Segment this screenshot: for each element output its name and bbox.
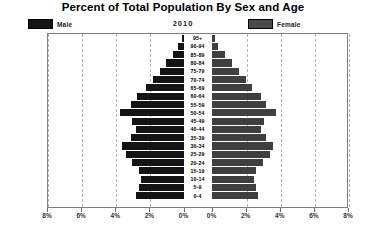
female-bar-cell bbox=[212, 134, 348, 142]
plot-area: 95+90-9485-8980-8475-7970-7465-6960-6455… bbox=[47, 33, 348, 208]
female-bar-cell bbox=[212, 125, 348, 133]
male-bar-cell bbox=[48, 34, 184, 42]
female-bar-cell bbox=[212, 92, 348, 100]
female-bar-cell bbox=[212, 183, 348, 191]
male-bar bbox=[122, 142, 183, 149]
male-bar bbox=[146, 84, 184, 91]
male-bar-cell bbox=[48, 100, 184, 108]
pyramid-row: 5-9 bbox=[48, 183, 347, 191]
female-bar-cell bbox=[212, 100, 348, 108]
axis-tick-label: 6% bbox=[309, 212, 318, 219]
pyramid-row: 60-64 bbox=[48, 92, 347, 100]
age-group-label: 30-34 bbox=[184, 142, 212, 150]
female-bar-cell bbox=[212, 167, 348, 175]
female-bar bbox=[212, 176, 255, 183]
pyramid-rows: 95+90-9485-8980-8475-7970-7465-6960-6455… bbox=[48, 34, 347, 207]
female-bar bbox=[212, 192, 258, 199]
chart-title: Percent of Total Population By Sex and A… bbox=[0, 1, 366, 13]
male-bar-cell bbox=[48, 75, 184, 83]
male-bar-cell bbox=[48, 175, 184, 183]
male-bar bbox=[131, 134, 184, 141]
age-group-label: 75-79 bbox=[184, 67, 212, 75]
age-group-label: 45-49 bbox=[184, 117, 212, 125]
female-bar-cell bbox=[212, 75, 348, 83]
female-bar bbox=[212, 118, 265, 125]
pyramid-row: 30-34 bbox=[48, 142, 347, 150]
age-group-label: 10-14 bbox=[184, 175, 212, 183]
pyramid-row: 40-44 bbox=[48, 125, 347, 133]
male-bar-cell bbox=[48, 150, 184, 158]
age-group-label: 90-94 bbox=[184, 42, 212, 50]
x-axis-labels: 8%6%4%2%0%0%2%4%6%8% bbox=[0, 212, 366, 226]
female-bar bbox=[212, 109, 277, 116]
male-bar bbox=[136, 126, 184, 133]
age-group-label: 25-29 bbox=[184, 150, 212, 158]
female-bar bbox=[212, 134, 267, 141]
female-bar-cell bbox=[212, 158, 348, 166]
axis-tick-label: 8% bbox=[343, 212, 352, 219]
male-bar-cell bbox=[48, 92, 184, 100]
axis-tick-label: 8% bbox=[42, 212, 51, 219]
female-bar-cell bbox=[212, 42, 348, 50]
age-group-label: 50-54 bbox=[184, 109, 212, 117]
female-bar-cell bbox=[212, 59, 348, 67]
gridline bbox=[349, 34, 350, 207]
female-bar bbox=[212, 151, 270, 158]
male-bar-cell bbox=[48, 84, 184, 92]
age-group-label: 40-44 bbox=[184, 125, 212, 133]
female-bar bbox=[212, 59, 232, 66]
age-group-label: 85-89 bbox=[184, 51, 212, 59]
axis-tick-label: 0% bbox=[179, 212, 188, 219]
axis-tick-label: 4% bbox=[111, 212, 120, 219]
female-bar bbox=[212, 126, 261, 133]
female-bar bbox=[212, 142, 273, 149]
age-group-label: 80-84 bbox=[184, 59, 212, 67]
female-bar bbox=[212, 101, 267, 108]
male-bar bbox=[137, 93, 183, 100]
female-bar bbox=[212, 51, 226, 58]
pyramid-row: 45-49 bbox=[48, 117, 347, 125]
population-pyramid-chart: Percent of Total Population By Sex and A… bbox=[0, 0, 366, 234]
male-bar bbox=[120, 109, 183, 116]
male-bar-cell bbox=[48, 42, 184, 50]
male-bar bbox=[141, 176, 184, 183]
male-bar-cell bbox=[48, 192, 184, 200]
age-group-label: 60-64 bbox=[184, 92, 212, 100]
pyramid-row: 10-14 bbox=[48, 175, 347, 183]
male-bar bbox=[160, 68, 184, 75]
male-bar bbox=[131, 101, 184, 108]
male-bar-cell bbox=[48, 67, 184, 75]
female-bar-cell bbox=[212, 117, 348, 125]
female-bar bbox=[212, 93, 261, 100]
pyramid-row: 55-59 bbox=[48, 100, 347, 108]
male-bar bbox=[139, 167, 183, 174]
female-bar-cell bbox=[212, 84, 348, 92]
female-bar bbox=[212, 35, 215, 42]
male-bar bbox=[132, 159, 183, 166]
axis-tick-label: 2% bbox=[241, 212, 250, 219]
female-bar bbox=[212, 167, 256, 174]
pyramid-row: 80-84 bbox=[48, 59, 347, 67]
axis-tick-label: 0% bbox=[207, 212, 216, 219]
pyramid-row: 95+ bbox=[48, 34, 347, 42]
male-bar-cell bbox=[48, 167, 184, 175]
female-bar bbox=[212, 184, 256, 191]
male-bar bbox=[153, 76, 184, 83]
age-group-label: 65-69 bbox=[184, 84, 212, 92]
female-bar bbox=[212, 159, 263, 166]
chart-subtitle-year: 2010 bbox=[0, 19, 366, 28]
pyramid-row: 65-69 bbox=[48, 84, 347, 92]
female-bar-cell bbox=[212, 67, 348, 75]
female-bar-cell bbox=[212, 150, 348, 158]
female-bar bbox=[212, 68, 239, 75]
pyramid-row: 20-24 bbox=[48, 158, 347, 166]
axis-tick-label: 4% bbox=[275, 212, 284, 219]
female-bar-cell bbox=[212, 192, 348, 200]
age-group-label: 55-59 bbox=[184, 100, 212, 108]
male-bar-cell bbox=[48, 158, 184, 166]
female-bar-cell bbox=[212, 34, 348, 42]
male-bar bbox=[166, 59, 183, 66]
pyramid-row: 35-39 bbox=[48, 134, 347, 142]
age-group-label: 5-9 bbox=[184, 183, 212, 191]
female-bar-cell bbox=[212, 109, 348, 117]
